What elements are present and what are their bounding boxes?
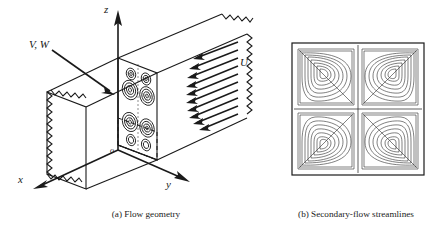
axis-x-label: x (17, 173, 23, 185)
figure-root: z x y o (0, 0, 434, 236)
streamwise-flow-arrows (186, 42, 238, 131)
secondary-velocity-leader (52, 50, 115, 95)
axis-z-label: z (103, 3, 109, 15)
axis-y (118, 150, 190, 182)
caption-panel-a: (a) Flow geometry (112, 209, 181, 219)
sawtooth-near-left (47, 92, 52, 176)
streamwise-velocity-label: U (240, 56, 249, 68)
sawtooth-near-top (51, 90, 86, 98)
axis-y-label: y (165, 178, 171, 190)
secondary-velocity-label: V, W (29, 38, 50, 50)
sawtooth-far-right (247, 34, 252, 114)
caption-panel-b: (b) Secondary-flow streamlines (298, 209, 414, 219)
cross-section-vortices (120, 64, 157, 152)
panel-secondary-flow-streamlines (292, 43, 424, 175)
origin-label: o (110, 146, 114, 155)
figure-canvas: z x y o (0, 0, 434, 236)
axis-x (33, 150, 118, 189)
sawtooth-far-top (222, 14, 253, 22)
panel-flow-geometry: z x y o (17, 3, 253, 190)
